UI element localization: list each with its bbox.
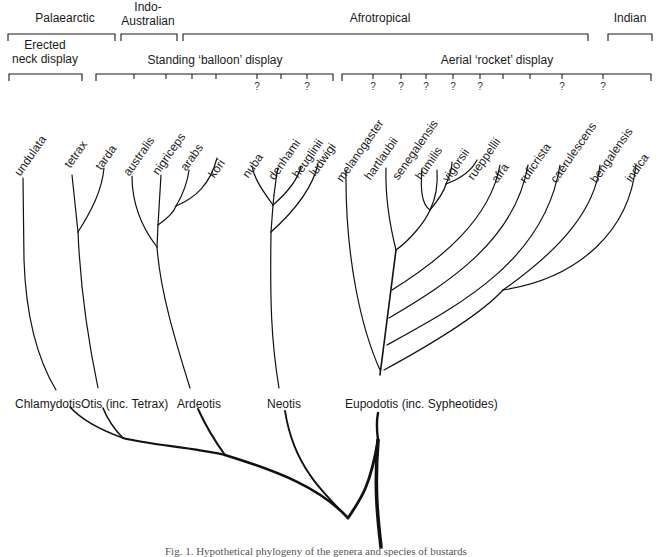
ardeotis-stem xyxy=(198,409,225,455)
genus-label: Chlamydotis xyxy=(15,397,81,411)
uncertain-marker: ? xyxy=(477,82,483,92)
region-label-line: Australian xyxy=(121,14,174,28)
branch-eupodotis-spine xyxy=(380,250,396,375)
uncertain-marker: ? xyxy=(398,82,404,92)
branch-senegalensis-humilis-group xyxy=(396,210,430,250)
uncertain-marker: ? xyxy=(304,82,310,92)
neotis-stem xyxy=(285,411,310,475)
branch-bengalensis xyxy=(503,165,600,290)
display-label: Erectedneck display xyxy=(12,38,78,66)
branch-indica xyxy=(503,164,636,290)
chlamydotis-stem xyxy=(70,407,123,438)
uncertain-marker: ? xyxy=(370,82,376,92)
branch-arabs-kori xyxy=(158,206,176,225)
branch-neotis-a xyxy=(271,205,273,232)
display-label: Aerial ‘rocket’ display xyxy=(441,53,553,67)
region-label: Indo-Australian xyxy=(121,0,174,28)
branch-ruficrista xyxy=(389,165,528,318)
bracket-layer xyxy=(8,34,652,81)
branch-humilis xyxy=(430,170,437,210)
backbone-mid xyxy=(225,455,348,518)
genus-label: Otis (inc. Tetrax) xyxy=(81,397,168,411)
neotis-join xyxy=(310,475,348,518)
region-bracket xyxy=(183,34,588,41)
branch-indian-group xyxy=(384,290,503,370)
display-bracket xyxy=(96,74,333,81)
branch-ardeotis-sub xyxy=(157,225,158,247)
uncertain-marker: ? xyxy=(600,82,606,92)
branch-undulata xyxy=(23,178,56,390)
eupodotis-stem xyxy=(377,413,378,440)
region-label: Indian xyxy=(614,11,647,25)
backbone-far xyxy=(123,438,225,455)
branch-layer xyxy=(23,158,636,547)
branch-ardeotis-main xyxy=(157,247,190,388)
figure-caption: Fig. 1. Hypothetical phylogeny of the ge… xyxy=(165,545,467,557)
branch-vigorsii-rueppellii xyxy=(430,184,446,210)
display-label-line: neck display xyxy=(12,52,78,66)
uncertain-marker: ? xyxy=(254,82,260,92)
branch-otis-main xyxy=(78,232,98,388)
branch-tetrax xyxy=(72,175,78,232)
genus-label: Ardeotis xyxy=(177,397,221,411)
uncertain-marker: ? xyxy=(450,82,456,92)
genus-label: Eupodotis (inc. Sypheotides) xyxy=(345,397,498,411)
branch-hartlaubii xyxy=(386,168,396,250)
region-label: Afrotropical xyxy=(350,11,411,25)
branch-nigriceps xyxy=(158,175,161,225)
display-bracket xyxy=(9,74,82,81)
branch-melanogaster xyxy=(346,170,380,370)
region-label-line: Indo- xyxy=(121,0,174,14)
region-label: Palaearctic xyxy=(35,11,94,25)
region-bracket xyxy=(121,34,177,41)
display-label: Standing ‘balloon’ display xyxy=(148,53,283,67)
branch-caerulescens xyxy=(387,165,560,345)
branch-tarda xyxy=(78,168,104,232)
uncertain-marker: ? xyxy=(423,82,429,92)
backbone-left xyxy=(348,440,378,518)
region-bracket xyxy=(608,34,652,41)
uncertain-marker: ? xyxy=(559,82,565,92)
branch-australis xyxy=(132,176,157,247)
genus-label: Neotis xyxy=(267,397,301,411)
display-label-line: Erected xyxy=(12,38,78,52)
display-bracket xyxy=(342,74,651,81)
root-trunk xyxy=(376,440,381,547)
branch-neotis-main xyxy=(271,232,279,388)
